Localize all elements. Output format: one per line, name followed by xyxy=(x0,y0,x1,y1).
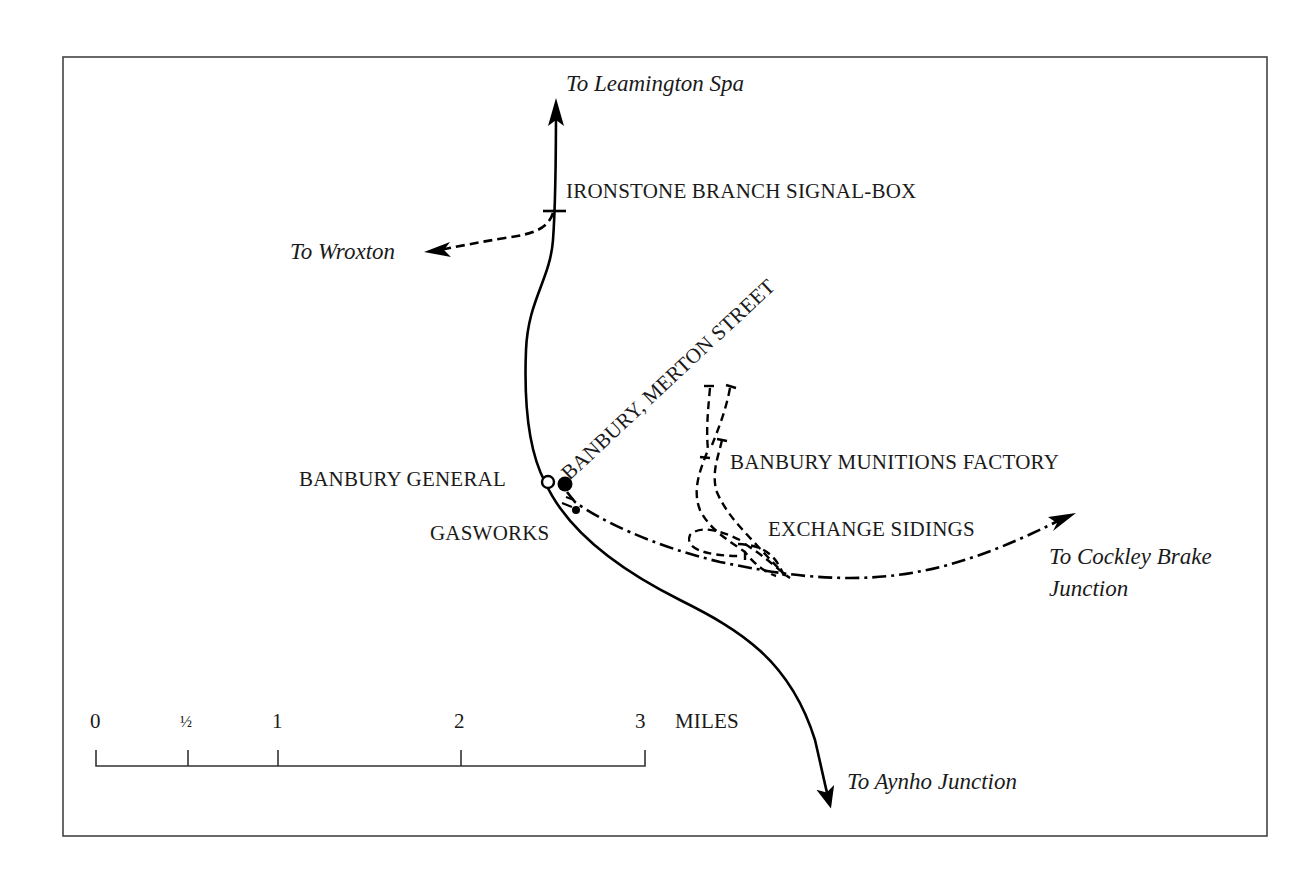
label-gasworks: GASWORKS xyxy=(430,523,549,544)
wroxton-branch xyxy=(440,213,553,250)
railway-map: To Leamington Spa IRONSTONE BRANCH SIGNA… xyxy=(0,0,1296,878)
label-banbury-general: BANBURY GENERAL xyxy=(299,469,506,490)
label-to-wroxton: To Wroxton xyxy=(290,240,395,263)
scale-tick-0: 0 xyxy=(90,711,101,732)
scale-unit-label: MILES xyxy=(675,711,739,732)
scale-bar xyxy=(96,750,645,766)
banbury-general-station-icon xyxy=(542,476,554,488)
map-drawing xyxy=(0,0,1296,878)
gasworks-siding xyxy=(562,497,574,507)
scale-tick-half: ½ xyxy=(180,714,192,730)
label-signal-box: IRONSTONE BRANCH SIGNAL-BOX xyxy=(566,181,916,202)
cockley-arrow-icon xyxy=(1048,513,1076,531)
scale-tick-1: 1 xyxy=(272,711,283,732)
gasworks-marker-icon xyxy=(572,506,580,514)
scale-tick-3: 3 xyxy=(635,711,646,732)
label-to-cockley-brake: To Cockley Brake xyxy=(1049,545,1212,568)
label-to-aynho-junction: To Aynho Junction xyxy=(847,770,1017,793)
munitions-sidings xyxy=(689,388,790,578)
label-exchange-sidings: EXCHANGE SIDINGS xyxy=(768,519,975,540)
label-munitions-factory: BANBURY MUNITIONS FACTORY xyxy=(730,452,1059,473)
scale-tick-2: 2 xyxy=(454,711,465,732)
map-frame xyxy=(63,57,1267,836)
label-junction: Junction xyxy=(1049,577,1128,600)
label-to-leamington-spa: To Leamington Spa xyxy=(566,72,744,95)
